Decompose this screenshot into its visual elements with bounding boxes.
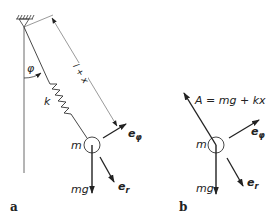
spring xyxy=(48,80,73,117)
figure-a-label: a xyxy=(10,200,18,214)
mass-label: m xyxy=(196,138,207,151)
radial-unit-vector-arrow xyxy=(227,158,243,186)
figure-b: m A = mg + kx mg eφ er b xyxy=(179,93,266,214)
mass-label: m xyxy=(71,139,82,152)
figure-a: φ k l + x m mg eφ er a xyxy=(10,15,142,214)
extension-line-top xyxy=(24,15,53,27)
pendulum-diagram: φ k l + x m mg eφ er a m A = mg + kx xyxy=(0,0,276,224)
ceiling-support xyxy=(16,15,34,27)
radial-unit-vector-arrow xyxy=(100,157,114,182)
angle-label: φ xyxy=(27,62,35,75)
radial-unit-vector-label: er xyxy=(118,180,130,195)
tangential-unit-vector-arrow xyxy=(103,124,126,138)
spring-label: k xyxy=(44,95,51,108)
radial-unit-vector-label: er xyxy=(247,176,259,191)
tangential-unit-vector-label: eφ xyxy=(251,125,265,140)
weight-label: mg xyxy=(196,182,214,195)
tension-force-label: A = mg + kx xyxy=(194,94,266,107)
tangential-unit-vector-label: eφ xyxy=(128,127,142,142)
pendulum-rod-lower xyxy=(73,117,87,138)
weight-label: mg xyxy=(71,183,89,196)
figure-b-label: b xyxy=(179,200,187,214)
